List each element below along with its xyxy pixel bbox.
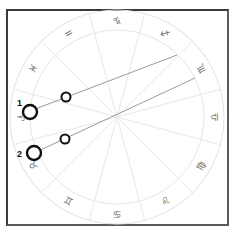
house-divider [117, 41, 193, 117]
zodiac-libra-icon: ♎ [209, 112, 220, 121]
zodiac-cancer-icon: ♋ [113, 209, 122, 220]
zodiac-virgo-icon: ♍ [194, 159, 208, 172]
aspect-line-1 [30, 55, 177, 111]
marker-label-1: 1 [17, 98, 22, 108]
zodiac-capricorn-icon: ♑ [113, 15, 122, 26]
zodiac-leo-icon: ♌ [159, 194, 172, 208]
house-divider [89, 117, 117, 220]
wheel-spokes [14, 14, 221, 221]
house-divider [117, 14, 145, 117]
planet-marker-large-1[interactable] [23, 105, 37, 119]
house-divider [117, 117, 220, 145]
planet-marker-small-2[interactable] [61, 135, 70, 144]
zodiac-scorpio-icon: ♏ [194, 62, 208, 75]
aspect-line-2 [34, 78, 195, 153]
zodiac-wheel: ♑♐♏♎♍♌♋♊♉♈♓♒ 12 [0, 0, 235, 233]
zodiac-sagittarius-icon: ♐ [159, 26, 172, 40]
zodiac-aquarius-icon: ♒ [62, 26, 75, 40]
planet-marker-large-2[interactable] [27, 146, 41, 160]
house-divider [117, 117, 145, 220]
house-divider [89, 14, 117, 117]
house-divider [41, 41, 117, 117]
house-divider [41, 117, 117, 193]
zodiac-gemini-icon: ♊ [62, 194, 75, 208]
house-divider [117, 117, 193, 193]
aspect-lines [30, 55, 195, 153]
planet-marker-small-1[interactable] [62, 93, 71, 102]
zodiac-pisces-icon: ♓ [26, 62, 40, 75]
marker-label-2: 2 [17, 149, 22, 159]
house-divider [117, 89, 220, 117]
